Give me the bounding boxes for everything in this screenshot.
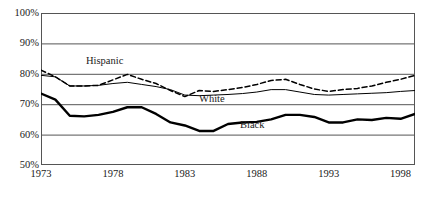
plot-border — [42, 14, 415, 165]
plot-svg — [41, 13, 415, 165]
x-tick-label: 1993 — [318, 168, 339, 180]
x-tick-label: 1988 — [246, 168, 267, 180]
series-lines — [41, 70, 415, 131]
x-tick-label: 1998 — [390, 168, 411, 180]
y-tick-label: 90% — [1, 38, 39, 48]
y-tick-label: 60% — [1, 130, 39, 140]
y-tick-label: 70% — [1, 99, 39, 109]
y-tick-label: 80% — [1, 69, 39, 79]
series-label-white: White — [199, 93, 225, 104]
series-line-black — [41, 94, 415, 131]
x-tick-label: 1973 — [31, 168, 52, 180]
line-chart: 100%90%80%70%60%50% Hispanic White Black… — [0, 0, 426, 200]
plot-area — [41, 13, 415, 165]
x-axis-tick-labels: 197319781983198819931998 — [0, 168, 426, 188]
x-tick-label: 1978 — [102, 168, 123, 180]
y-tick-label: 100% — [1, 8, 39, 18]
series-label-black: Black — [240, 119, 265, 130]
x-tick-label: 1983 — [174, 168, 195, 180]
series-line-white — [41, 75, 415, 95]
series-label-hispanic: Hispanic — [86, 55, 123, 66]
chart-title-cropped — [60, 0, 360, 9]
